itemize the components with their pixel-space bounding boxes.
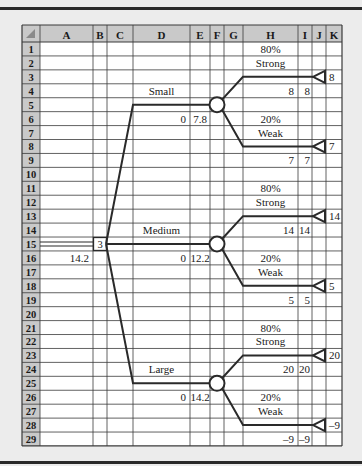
outcome-value-i: 20: [299, 363, 311, 375]
row-header-17[interactable]: 17: [26, 267, 37, 278]
outcome-value-h: 8: [289, 85, 295, 97]
column-header-label: B: [96, 29, 104, 41]
outcome-label: Weak: [258, 127, 283, 139]
row-header-6[interactable]: 6: [28, 114, 33, 125]
outcome-label: Strong: [256, 196, 286, 208]
row-header-15[interactable]: 15: [26, 239, 37, 250]
row-header-label: 24: [26, 364, 37, 375]
outcome-value-i: 7: [305, 154, 311, 166]
row-header-19[interactable]: 19: [26, 295, 37, 306]
column-header-label: G: [229, 29, 238, 41]
row-header-8[interactable]: 8: [28, 141, 33, 152]
column-header-label: J: [316, 29, 322, 41]
row-header-label: 8: [28, 141, 33, 152]
outcome-value-i: 8: [305, 85, 311, 97]
row-header-11[interactable]: 11: [26, 183, 36, 194]
outcome-probability: 20%: [260, 252, 280, 264]
column-header-label: A: [63, 29, 71, 41]
row-header-label: 10: [26, 169, 37, 180]
column-header-g[interactable]: G: [229, 29, 238, 41]
branch-ev-small: 7.8: [193, 113, 207, 125]
row-header-label: 2: [28, 58, 33, 69]
row-header-5[interactable]: 5: [28, 100, 33, 111]
row-header-label: 13: [26, 211, 37, 222]
column-header-e[interactable]: E: [196, 29, 203, 41]
branch-ev-large: 14.2: [190, 391, 209, 403]
row-header-label: 25: [26, 378, 37, 389]
branch-cost-small: 0: [181, 113, 187, 125]
column-header-j[interactable]: J: [316, 29, 322, 41]
row-header-16[interactable]: 16: [26, 253, 37, 264]
row-header-label: 5: [28, 100, 33, 111]
outcome-value-h: 20: [283, 363, 295, 375]
row-header-24[interactable]: 24: [26, 364, 37, 375]
outcome-value-i: 14: [299, 224, 311, 236]
row-header-label: 29: [26, 434, 37, 445]
row-header-label: 21: [26, 323, 37, 334]
row-header-label: 11: [26, 183, 36, 194]
terminal-payoff: 5: [329, 280, 335, 292]
row-header-27[interactable]: 27: [26, 406, 37, 417]
column-header-b[interactable]: B: [96, 29, 104, 41]
decision-node[interactable]: 3: [94, 237, 107, 250]
decision-expected-value: 14.2: [70, 252, 89, 264]
row-header-28[interactable]: 28: [26, 420, 37, 431]
outcome-probability: 80%: [260, 322, 280, 334]
row-header-9[interactable]: 9: [28, 155, 33, 166]
outcome-value-h: 7: [289, 154, 295, 166]
row-header-label: 22: [26, 336, 37, 347]
decision-node-label: 3: [97, 239, 102, 250]
row-header-label: 18: [26, 281, 37, 292]
row-header-label: 3: [28, 72, 33, 83]
column-header-a[interactable]: A: [63, 29, 71, 41]
outcome-label: Strong: [256, 335, 286, 347]
column-header-label: C: [116, 29, 124, 41]
row-header-10[interactable]: 10: [26, 169, 37, 180]
row-header-25[interactable]: 25: [26, 378, 37, 389]
row-header-label: 19: [26, 295, 37, 306]
outcome-value-h: 5: [289, 294, 295, 306]
row-header-label: 27: [26, 406, 37, 417]
row-header-14[interactable]: 14: [26, 225, 37, 236]
row-header-12[interactable]: 12: [26, 197, 37, 208]
row-header-label: 7: [28, 128, 33, 139]
outcome-value-i: –9: [298, 433, 311, 445]
column-header-label: K: [330, 29, 339, 41]
outcome-label: Weak: [258, 266, 283, 278]
row-header-label: 15: [26, 239, 37, 250]
column-header-k[interactable]: K: [330, 29, 339, 41]
terminal-payoff: –9: [328, 419, 341, 431]
row-header-label: 23: [26, 350, 37, 361]
outcome-value-h: 14: [283, 224, 295, 236]
outcome-probability: 20%: [260, 391, 280, 403]
column-header-f[interactable]: F: [214, 29, 221, 41]
row-header-3[interactable]: 3: [28, 72, 33, 83]
row-header-23[interactable]: 23: [26, 350, 37, 361]
row-header-13[interactable]: 13: [26, 211, 37, 222]
row-header-2[interactable]: 2: [28, 58, 33, 69]
column-header-label: E: [196, 29, 203, 41]
outcome-probability: 80%: [260, 43, 280, 55]
branch-name-large: Large: [149, 363, 175, 375]
row-header-26[interactable]: 26: [26, 392, 37, 403]
row-header-22[interactable]: 22: [26, 336, 37, 347]
row-header-label: 14: [26, 225, 37, 236]
row-header-20[interactable]: 20: [26, 309, 37, 320]
row-header-label: 28: [26, 420, 37, 431]
branch-name-medium: Medium: [143, 224, 181, 236]
row-header-7[interactable]: 7: [28, 128, 33, 139]
row-header-21[interactable]: 21: [26, 323, 37, 334]
column-header-label: H: [266, 29, 275, 41]
row-header-1[interactable]: 1: [28, 44, 33, 55]
column-header-c[interactable]: C: [116, 29, 124, 41]
outcome-label: Weak: [258, 405, 283, 417]
column-header-h[interactable]: H: [266, 29, 275, 41]
branch-ev-medium: 12.2: [190, 252, 209, 264]
column-header-d[interactable]: D: [158, 29, 166, 41]
row-header-label: 26: [26, 392, 37, 403]
column-header-i[interactable]: I: [303, 29, 307, 41]
row-header-18[interactable]: 18: [26, 281, 37, 292]
row-header-29[interactable]: 29: [26, 434, 37, 445]
row-header-4[interactable]: 4: [28, 86, 34, 97]
branch-cost-large: 0: [181, 391, 187, 403]
